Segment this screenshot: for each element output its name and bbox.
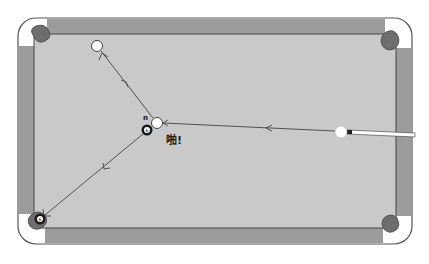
pocket-top-right-icon [381, 31, 399, 50]
pocket-bottom-right-icon [382, 215, 399, 232]
rail-bottom [45, 227, 383, 243]
rail-left [19, 46, 35, 214]
object-ball-pocketed: 6 [35, 214, 46, 225]
ball-number-tag: n [143, 114, 148, 122]
svg-text:6: 6 [39, 217, 42, 222]
rail-top [47, 19, 385, 35]
billiards-diagram: 6 6 [0, 0, 429, 264]
impact-text: 啪! [166, 131, 182, 147]
object-ball-start: 6 [142, 125, 153, 136]
svg-text:6: 6 [146, 128, 149, 133]
cue-ball-final [92, 41, 103, 52]
cue-ball-start [335, 126, 347, 138]
cue-ball-contact [152, 118, 163, 129]
